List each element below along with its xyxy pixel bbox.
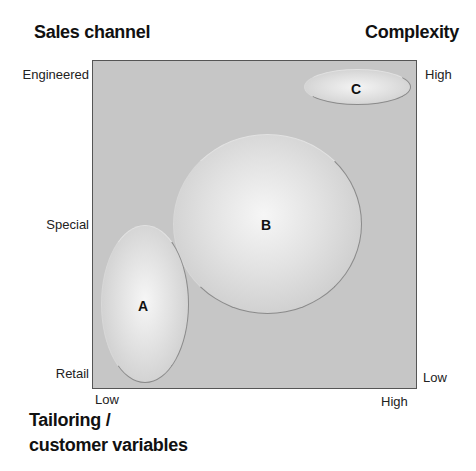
y-tick-special: Special	[46, 217, 89, 232]
x-axis-title-line1: Tailoring /	[29, 410, 110, 431]
y-tick-retail: Retail	[56, 366, 89, 381]
region-label-b: B	[261, 217, 271, 233]
plot-area: A B C	[92, 60, 417, 389]
complexity-tick-high: High	[425, 67, 452, 82]
y-axis-title: Sales channel	[34, 22, 150, 43]
region-label-a: A	[138, 298, 148, 314]
region-label-c: C	[351, 81, 361, 97]
x-tick-high: High	[381, 394, 408, 409]
complexity-tick-low: Low	[423, 370, 447, 385]
y-tick-engineered: Engineered	[23, 67, 90, 82]
x-tick-low: Low	[95, 392, 119, 407]
x-axis-title-line2: customer variables	[29, 435, 188, 456]
complexity-axis-title: Complexity	[365, 22, 459, 43]
